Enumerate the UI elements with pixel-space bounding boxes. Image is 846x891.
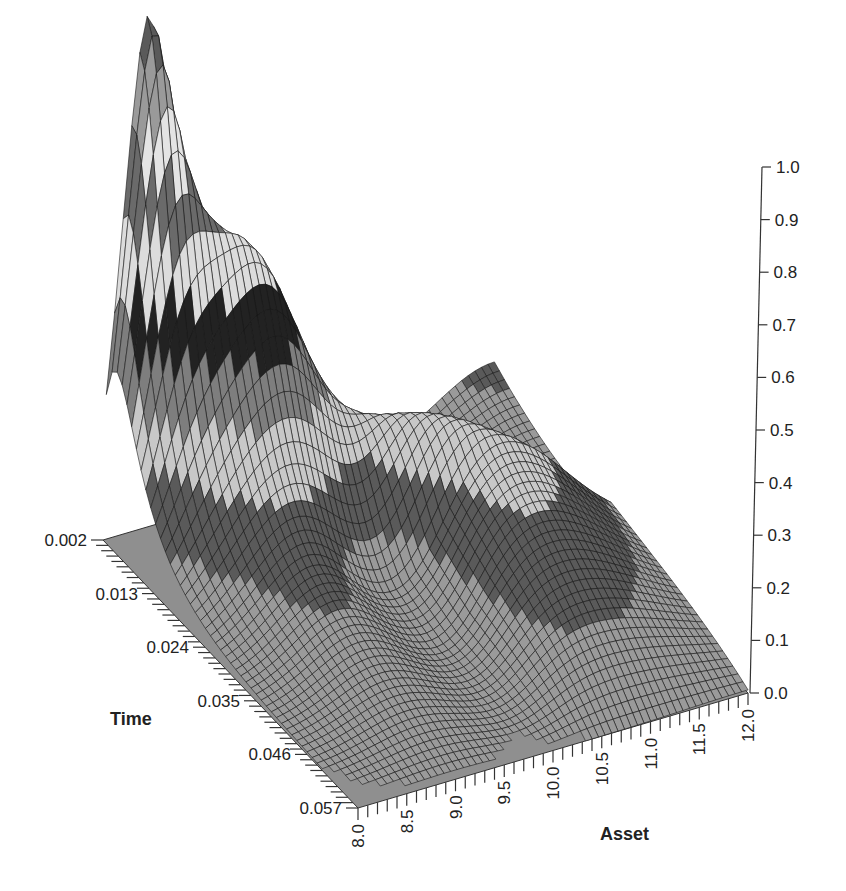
z-tick-label: 1.0 (776, 158, 800, 177)
asset-tick-label: 10.0 (544, 767, 563, 800)
z-axis: 0.00.10.20.30.40.50.60.70.80.91.0 (750, 158, 800, 703)
time-tick-label: 0.046 (248, 745, 291, 764)
time-tick-label: 0.057 (299, 799, 342, 818)
z-tick-label: 0.5 (770, 421, 794, 440)
asset-axis-title: Asset (600, 824, 649, 844)
asset-tick-label: 9.5 (495, 781, 514, 805)
z-tick-label: 0.6 (771, 368, 795, 387)
z-tick-label: 0.7 (772, 316, 796, 335)
time-axis-title: Time (110, 709, 152, 729)
z-tick-label: 0.0 (764, 684, 788, 703)
asset-tick-label: 10.5 (593, 752, 612, 785)
time-tick-label: 0.024 (146, 638, 189, 657)
z-tick-label: 0.8 (774, 263, 798, 282)
z-tick-label: 0.1 (765, 631, 789, 650)
asset-tick-label: 12.0 (739, 709, 758, 742)
z-tick-label: 0.2 (766, 579, 790, 598)
time-tick-label: 0.013 (95, 585, 138, 604)
asset-tick-label: 9.0 (447, 795, 466, 819)
surface-mesh (106, 16, 748, 786)
z-tick-label: 0.4 (769, 474, 793, 493)
surface-plot: 0.00.10.20.30.40.50.60.70.80.91.0 0.0020… (0, 0, 846, 891)
time-tick-label: 0.035 (197, 692, 240, 711)
z-tick-label: 0.3 (768, 526, 792, 545)
z-tick-label: 0.9 (775, 211, 799, 230)
time-tick-label: 0.002 (44, 531, 87, 550)
asset-tick-label: 8.0 (349, 824, 368, 848)
asset-tick-label: 11.5 (690, 723, 709, 755)
asset-tick-label: 11.0 (642, 738, 661, 770)
asset-tick-label: 8.5 (398, 810, 417, 834)
